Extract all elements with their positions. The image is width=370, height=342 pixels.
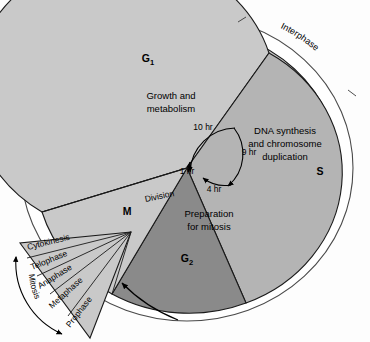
cell-cycle-figure: G1 Growth and metabolism S DNA synthesis… [0,0,370,342]
g1-label-line2: metabolism [147,103,196,114]
label-9hr: 9 hr [242,147,257,157]
g1-label-line1: Growth and [146,90,195,101]
label-4hr: 4 hr [207,184,222,194]
s-label-line2: and chromosome [248,138,321,149]
sector-label-m: M [123,205,132,217]
interphase-tick-end [348,90,356,96]
s-label-line3: duplication [262,151,307,162]
g2-label-line1: Preparation [184,208,233,219]
label-1hr: 1 hr [180,166,195,176]
g2-label-line2: for mitosis [187,221,231,232]
cell-cycle-diagram: G1 Growth and metabolism S DNA synthesis… [0,0,370,342]
s-code: S [316,165,323,177]
label-10hr: 10 hr [193,122,213,132]
m-code: M [123,205,132,217]
s-label-line1: DNA synthesis [254,125,316,136]
